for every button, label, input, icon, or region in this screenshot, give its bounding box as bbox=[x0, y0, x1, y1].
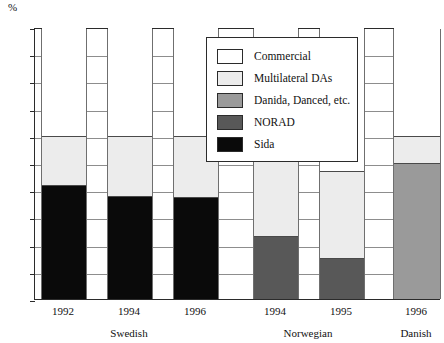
x-axis-group-label: Swedish bbox=[40, 327, 218, 339]
legend-item: NORAD bbox=[207, 111, 357, 133]
legend-item: Sida bbox=[207, 133, 357, 155]
x-axis-tick-label: 1994 bbox=[106, 305, 152, 317]
y-axis-tick bbox=[30, 301, 35, 302]
bar-segment bbox=[320, 258, 364, 299]
gridline-horizontal bbox=[35, 247, 439, 248]
y-axis-tick bbox=[30, 192, 35, 193]
y-axis-tick bbox=[30, 83, 35, 84]
legend-label: Sida bbox=[254, 138, 274, 150]
y-axis-tick bbox=[30, 138, 35, 139]
chart-legend: Commercial Multilateral DAs Danida, Danc… bbox=[206, 37, 358, 162]
bar bbox=[107, 29, 153, 299]
bar-segment bbox=[174, 197, 218, 299]
x-axis-group-label: Norwegian bbox=[252, 327, 364, 339]
x-axis-group-label: Danish bbox=[392, 327, 440, 339]
legend-label: Multilateral DAs bbox=[254, 72, 332, 84]
bar-segment bbox=[42, 185, 86, 299]
legend-swatch-norad bbox=[217, 115, 243, 130]
bar-segment bbox=[108, 136, 152, 196]
bar bbox=[41, 29, 87, 299]
x-axis-tick-label: 1996 bbox=[172, 305, 218, 317]
y-axis-tick bbox=[30, 247, 35, 248]
y-axis-tick bbox=[30, 56, 35, 57]
legend-item: Multilateral DAs bbox=[207, 67, 357, 89]
y-axis-tick bbox=[30, 165, 35, 166]
y-axis-unit-label: % bbox=[8, 2, 17, 13]
legend-swatch-danida bbox=[217, 93, 243, 108]
bar-segment bbox=[42, 136, 86, 185]
bar bbox=[393, 29, 441, 299]
bar-segment bbox=[108, 27, 152, 136]
legend-item: Commercial bbox=[207, 45, 357, 67]
y-axis-tick bbox=[30, 111, 35, 112]
x-axis-tick-label: 1994 bbox=[252, 305, 298, 317]
x-axis-tick-label: 1995 bbox=[318, 305, 364, 317]
legend-swatch-sida bbox=[217, 137, 243, 152]
bar-segment bbox=[394, 136, 440, 163]
legend-swatch-multilateral bbox=[217, 71, 243, 86]
legend-label: Commercial bbox=[254, 50, 311, 62]
legend-item: Danida, Danced, etc. bbox=[207, 89, 357, 111]
bar-segment bbox=[42, 27, 86, 136]
x-axis-tick-label: 1996 bbox=[392, 305, 440, 317]
gridline-horizontal bbox=[35, 274, 439, 275]
gridline-horizontal bbox=[35, 165, 439, 166]
y-axis-tick bbox=[30, 29, 35, 30]
y-axis-tick bbox=[30, 219, 35, 220]
bar-segment bbox=[394, 27, 440, 136]
legend-label: NORAD bbox=[254, 116, 295, 128]
bar-segment bbox=[108, 196, 152, 299]
x-axis-tick-label: 1992 bbox=[40, 305, 86, 317]
gridline-horizontal bbox=[35, 219, 439, 220]
chart-container: % 0102030405060708090100 199219941996199… bbox=[0, 0, 444, 343]
legend-swatch-commercial bbox=[217, 49, 243, 64]
legend-label: Danida, Danced, etc. bbox=[254, 94, 350, 106]
bar-segment bbox=[394, 163, 440, 299]
gridline-horizontal bbox=[35, 192, 439, 193]
bar-segment bbox=[320, 171, 364, 258]
y-axis-tick bbox=[30, 274, 35, 275]
bar-segment bbox=[254, 236, 298, 299]
